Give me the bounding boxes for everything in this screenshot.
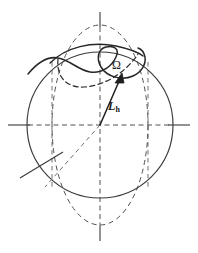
precession-diagram-figure: Ω Lh	[0, 0, 198, 253]
diagram-canvas	[0, 0, 198, 253]
solid-orbit-curve-path	[28, 46, 145, 78]
omega-label: Ω	[112, 59, 121, 71]
node-line-dashed-segment	[45, 125, 100, 187]
angular-momentum-subscript: h	[115, 105, 119, 114]
angular-momentum-label: Lh	[108, 100, 120, 114]
